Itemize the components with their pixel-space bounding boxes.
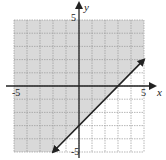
x-tick-label-max: 5 xyxy=(141,87,146,98)
x-tick-label-min: -5 xyxy=(12,87,20,98)
y-tick-label-min: -5 xyxy=(71,146,79,157)
x-axis-label: x xyxy=(156,86,162,98)
inequality-graph: x y -5 5 5 -5 xyxy=(0,0,166,160)
y-tick-label-max: 5 xyxy=(71,12,76,23)
y-axis-label: y xyxy=(83,1,89,13)
